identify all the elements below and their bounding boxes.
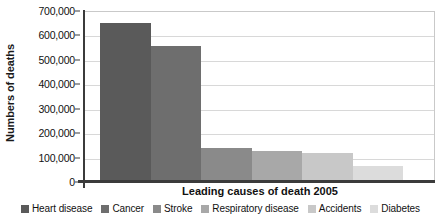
- legend-label: Diabetes: [381, 203, 420, 214]
- legend-label: Cancer: [112, 203, 144, 214]
- legend-item[interactable]: Diabetes: [370, 203, 420, 214]
- y-axis-tick-label: 700,000: [38, 5, 75, 17]
- legend-label: Stroke: [164, 203, 192, 214]
- y-axis-tick-label: 300,000: [38, 103, 75, 115]
- legend-item[interactable]: Cancer: [101, 203, 144, 214]
- legend-label: Respiratory disease: [212, 203, 298, 214]
- legend-swatch-icon: [101, 205, 109, 213]
- chart-legend: Heart diseaseCancerStrokeRespiratory dis…: [0, 203, 441, 214]
- bar-heart-disease[interactable]: [100, 23, 151, 182]
- legend-swatch-icon: [308, 205, 316, 213]
- y-axis-tick-labels: 700,000600,000500,000400,000300,000200,0…: [18, 0, 80, 185]
- bar-stroke[interactable]: [201, 148, 252, 182]
- y-axis-tick-label: 400,000: [38, 78, 75, 90]
- bar-chart: Numbers of deaths 700,000600,000500,0004…: [0, 0, 441, 220]
- legend-item[interactable]: Accidents: [308, 203, 361, 214]
- bars-layer: [100, 11, 403, 182]
- y-axis-tick-mark: [75, 108, 80, 109]
- legend-item[interactable]: Heart disease: [21, 203, 92, 214]
- x-axis-line: [78, 180, 435, 183]
- legend-swatch-icon: [201, 205, 209, 213]
- y-axis-tick-mark: [75, 84, 80, 85]
- y-axis-tick-mark: [75, 35, 80, 36]
- x-axis-title: Leading causes of death 2005: [85, 185, 435, 197]
- y-axis-tick-mark: [75, 157, 80, 158]
- legend-item[interactable]: Stroke: [153, 203, 192, 214]
- legend-label: Accidents: [319, 203, 361, 214]
- y-axis-tick-label: 600,000: [38, 29, 75, 41]
- y-axis-tick-mark: [75, 59, 80, 60]
- plot-area: [85, 11, 435, 182]
- bar-respiratory-disease[interactable]: [252, 151, 303, 182]
- y-axis-title-text: Numbers of deaths: [4, 44, 16, 142]
- y-axis-tick-mark: [75, 11, 80, 12]
- y-axis-tick-label: 100,000: [38, 152, 75, 164]
- y-axis-tick-label: 500,000: [38, 54, 75, 66]
- y-axis-title: Numbers of deaths: [0, 0, 20, 185]
- y-axis-line: [83, 10, 85, 188]
- legend-label: Heart disease: [32, 203, 92, 214]
- legend-swatch-icon: [21, 205, 29, 213]
- legend-swatch-icon: [153, 205, 161, 213]
- bar-accidents[interactable]: [302, 153, 353, 182]
- bar-cancer[interactable]: [151, 46, 202, 182]
- legend-item[interactable]: Respiratory disease: [201, 203, 298, 214]
- y-axis-tick-label: 200,000: [38, 127, 75, 139]
- y-axis-tick-mark: [75, 133, 80, 134]
- legend-swatch-icon: [370, 205, 378, 213]
